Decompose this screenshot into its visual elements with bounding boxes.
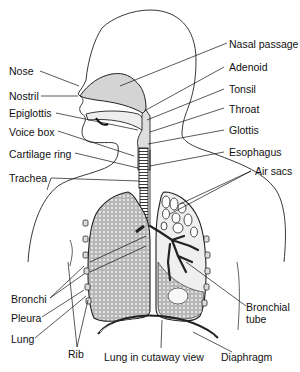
- left-arm-line: [70, 240, 72, 266]
- label-bronchi: Bronchi: [11, 293, 47, 305]
- label-nasal-passage: Nasal passage: [229, 38, 298, 50]
- label-nose: Nose: [9, 65, 34, 77]
- label-air-sacs: Air sacs: [255, 165, 292, 177]
- heart-area: [168, 288, 188, 304]
- label-tonsil: Tonsil: [229, 83, 256, 95]
- label-diaphragm: Diaphragm: [221, 351, 272, 363]
- label-adenoid: Adenoid: [229, 61, 268, 73]
- label-glottis: Glottis: [229, 124, 259, 136]
- label-pleura: Pleura: [11, 312, 41, 324]
- label-trachea: Trachea: [9, 172, 47, 184]
- label-epiglottis: Epiglottis: [9, 107, 52, 119]
- right-arm-line: [237, 262, 239, 330]
- label-throat: Throat: [229, 103, 259, 115]
- palate: [86, 111, 144, 130]
- label-voice-box: Voice box: [9, 126, 55, 138]
- label-cartilage-ring: Cartilage ring: [9, 148, 71, 160]
- label-lung-cutaway: Lung in cutaway view: [104, 351, 204, 363]
- trachea-rings: [139, 148, 148, 188]
- label-bronchial-tube-line1: Bronchial: [246, 301, 290, 313]
- label-nostril: Nostril: [9, 90, 39, 102]
- left-lung: [88, 192, 150, 321]
- label-rib: Rib: [68, 348, 84, 360]
- label-esophagus: Esophagus: [229, 146, 282, 158]
- label-bronchial-tube-line2: tube: [246, 313, 266, 325]
- label-lung: Lung: [11, 333, 34, 345]
